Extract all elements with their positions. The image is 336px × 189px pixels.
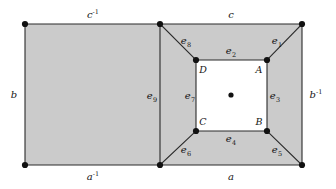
edge-label-b: b (11, 90, 18, 100)
edge-label-a-inverse: a-1 (87, 172, 100, 182)
edge-label-e2: e2 (226, 46, 236, 56)
edge-label-a: a (228, 172, 234, 182)
edge-label-b-inverse: b-1 (309, 90, 322, 100)
edge-label-e1: e1 (272, 36, 282, 46)
vertex-dot-outer-top-mid (157, 21, 163, 27)
vertex-dot-inner-D (193, 57, 199, 63)
vertex-dot-inner-A (264, 57, 270, 63)
edge-label-c-inverse: c-1 (87, 10, 99, 20)
vertex-label-C: C (199, 117, 206, 127)
edge-label-e5: e5 (272, 145, 282, 155)
edge-label-c: c (228, 10, 234, 20)
center-point-dot (228, 92, 233, 97)
vertex-label-B: B (255, 117, 262, 127)
vertex-dot-outer-bottom-left (22, 162, 28, 168)
vertex-dot-outer-top-left (22, 21, 28, 27)
vertex-dot-outer-bottom-right (299, 162, 305, 168)
vertex-dot-outer-top-right (299, 21, 305, 27)
diagram-canvas (0, 0, 336, 189)
edge-label-e7: e7 (185, 91, 195, 101)
vertex-dot-inner-B (264, 128, 270, 134)
polygon-identification-diagram: c-1 c b b-1 a-1 a e1 e2 e3 e4 e5 e6 e7 e… (0, 0, 336, 189)
vertex-dot-inner-C (193, 128, 199, 134)
edge-label-e3: e3 (270, 91, 280, 101)
edge-label-e9: e9 (147, 91, 157, 101)
edge-label-e4: e4 (226, 134, 236, 144)
edge-label-e8: e8 (181, 36, 191, 46)
edge-label-e6: e6 (181, 145, 191, 155)
vertex-label-A: A (256, 65, 263, 75)
vertex-label-D: D (199, 65, 207, 75)
vertex-dot-outer-bottom-mid (157, 162, 163, 168)
